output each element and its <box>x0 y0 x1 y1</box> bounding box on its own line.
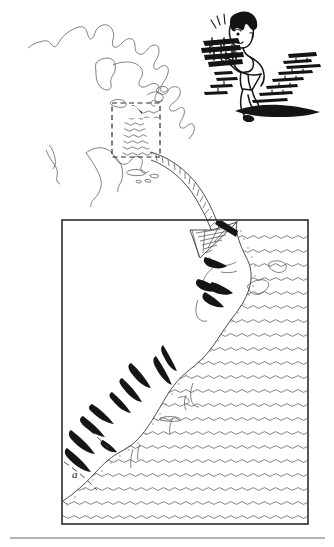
zoom-arrow <box>150 152 237 258</box>
effort-marks-icon <box>211 14 225 28</box>
figure-root: a <box>0 0 334 547</box>
boy-carrying-bricks-cartoon <box>201 12 321 122</box>
detail-panel-frame <box>62 220 308 524</box>
brick-stack-icon <box>201 38 244 67</box>
ocean-wave-pattern <box>60 236 312 519</box>
overview-ocean-hatching <box>120 104 161 155</box>
map-label-a: a <box>72 468 78 480</box>
north-america-outline-map <box>28 25 194 207</box>
figure-canvas: a <box>0 0 334 547</box>
northeast-coast-detail-map: a <box>60 218 312 518</box>
